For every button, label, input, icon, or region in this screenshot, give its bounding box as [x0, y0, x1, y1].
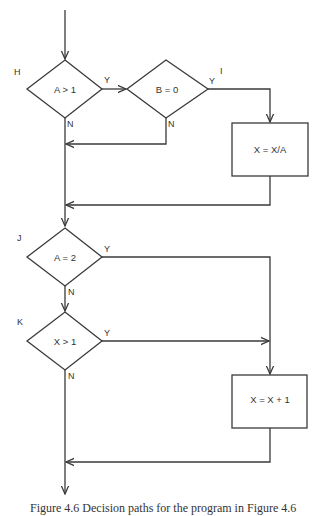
decision-i-text: B = 0 — [156, 84, 178, 95]
figure-caption: Figure 4.6 Decision paths for the progra… — [30, 501, 324, 516]
edge-label-i-no: N — [168, 119, 175, 129]
process-box-2-text: X = X + 1 — [250, 394, 290, 405]
decision-k-text: X > 1 — [54, 336, 76, 347]
decision-h: A > 1 — [27, 60, 102, 118]
process-box-1: X = X/A — [232, 123, 308, 176]
node-label-k: K — [17, 317, 23, 327]
process-box-2: X = X + 1 — [232, 375, 307, 428]
edge-label-j-yes: Y — [104, 244, 110, 254]
decision-j: A = 2 — [27, 228, 102, 286]
decision-j-text: A = 2 — [54, 252, 76, 263]
decision-i: B = 0 — [127, 60, 208, 118]
edge-label-h-yes: Y — [104, 75, 110, 85]
process-box-1-text: X = X/A — [254, 144, 287, 155]
edge-label-h-no: N — [67, 119, 74, 129]
edge-box1-merge — [66, 176, 270, 205]
node-label-j: J — [17, 233, 22, 243]
edge-i-no — [66, 118, 166, 144]
node-label-i: I — [220, 66, 223, 76]
edge-label-j-no: N — [68, 287, 75, 297]
edge-label-k-no: N — [68, 371, 75, 381]
edge-i-yes — [208, 89, 270, 122]
edge-label-k-yes: Y — [104, 328, 110, 338]
decision-k: X > 1 — [27, 312, 102, 370]
node-label-h: H — [14, 67, 21, 77]
edge-j-yes — [102, 257, 270, 374]
edge-label-i-yes: Y — [209, 76, 215, 86]
edge-box2-merge — [66, 428, 270, 462]
decision-h-text: A > 1 — [54, 84, 76, 95]
